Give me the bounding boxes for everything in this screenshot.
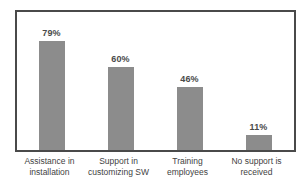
- category-label-4-line1: No support is: [222, 156, 291, 167]
- bar-2[interactable]: [108, 67, 134, 150]
- category-label-1: Assistance in installation: [15, 156, 84, 178]
- bar-group-2: 60%: [86, 12, 155, 150]
- bar-group-1: 79%: [17, 12, 86, 150]
- category-label-4: No support is received: [222, 156, 291, 178]
- bar-value-label-1: 79%: [42, 28, 60, 38]
- category-label-3-line2: employees: [153, 167, 222, 178]
- category-label-3-line1: Training: [153, 156, 222, 167]
- category-label-1-line2: installation: [15, 167, 84, 178]
- category-label-2-line1: Support in: [84, 156, 153, 167]
- category-label-2: Support in customizing SW: [84, 156, 153, 178]
- category-axis: Assistance in installation Support in cu…: [15, 156, 296, 188]
- bar-group-4: 11%: [224, 12, 293, 150]
- category-label-4-line2: received: [222, 167, 291, 178]
- category-label-3: Training employees: [153, 156, 222, 178]
- bar-value-label-3: 46%: [180, 74, 198, 84]
- bar-chart: 79% 60% 46% 11% Assistance in installati…: [0, 0, 308, 190]
- bar-3[interactable]: [177, 87, 203, 150]
- bar-value-label-2: 60%: [111, 54, 129, 64]
- plot-frame: 79% 60% 46% 11%: [15, 10, 296, 152]
- bar-value-label-4: 11%: [250, 122, 268, 132]
- plot-area: 79% 60% 46% 11%: [17, 12, 294, 150]
- category-label-1-line1: Assistance in: [15, 156, 84, 167]
- bar-group-3: 46%: [155, 12, 224, 150]
- category-label-2-line2: customizing SW: [84, 167, 153, 178]
- bar-4[interactable]: [246, 135, 272, 150]
- bar-1[interactable]: [39, 41, 65, 150]
